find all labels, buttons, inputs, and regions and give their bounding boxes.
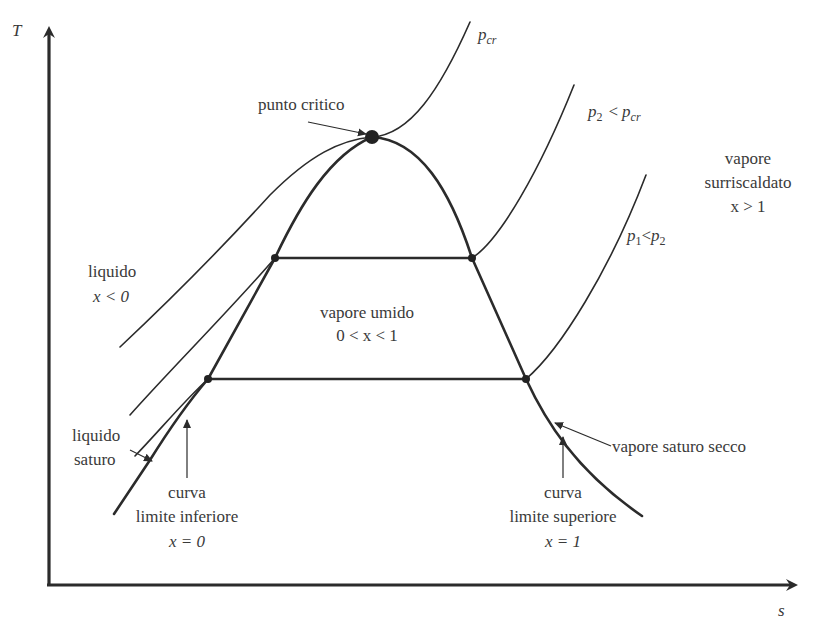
ts-diagram: T s pcr p2<pcr p1<p2 liquido x < 0 vapor… [0,0,813,633]
svg-text:vapore: vapore [725,149,771,168]
leader-arrows [130,122,611,478]
critical-point-dot [365,130,379,144]
svg-text:curva: curva [544,483,582,502]
svg-text:x = 0: x = 0 [168,532,206,551]
svg-text:liquido: liquido [88,262,136,281]
svg-text:x < 0: x < 0 [92,287,130,306]
axes [47,32,792,585]
s-axis-label: s [778,601,785,620]
lower-limit-curve-label: curva limite inferiore x = 0 [136,483,238,551]
liquid-region-label: liquido x < 0 [88,262,136,306]
isobar-p1-label: p1<p2 [626,226,666,248]
isobar-p2 [130,85,574,415]
svg-text:limite inferiore: limite inferiore [136,507,238,526]
saturated-liquid-arrow [130,450,152,461]
svg-text:surriscaldato: surriscaldato [705,173,792,192]
upper-limit-curve [372,137,642,516]
svg-text:p2<pcr: p2<pcr [587,102,641,124]
dry-saturated-vapor-label: vapore saturo secco [612,437,746,456]
point-p2-liquid [271,254,279,262]
svg-text:vapore umido: vapore umido [320,303,414,322]
upper-limit-curve-label: curva limite superiore x = 1 [509,483,616,551]
isobar-p2-label: p2<pcr [587,102,641,124]
isobar-pcr-label: pcr [477,25,497,47]
svg-text:curva: curva [168,483,206,502]
point-p1-liquid [204,375,212,383]
svg-text:x = 1: x = 1 [544,532,581,551]
wet-vapor-region-label: vapore umido 0 < x < 1 [320,303,414,345]
point-p1-vapor [522,375,530,383]
isobar-pcr [120,22,470,347]
svg-text:x > 1: x > 1 [730,197,765,216]
critical-point-label: punto critico [258,95,344,114]
t-axis-label: T [12,21,23,40]
svg-text:liquido: liquido [72,426,120,445]
svg-text:limite superiore: limite superiore [509,507,616,526]
svg-text:pcr: pcr [477,25,497,47]
state-points [204,130,530,383]
point-p2-vapor [468,254,476,262]
superheated-region-label: vapore surriscaldato x > 1 [705,149,792,216]
svg-text:p1<p2: p1<p2 [626,226,666,248]
svg-text:saturo: saturo [74,450,116,469]
svg-text:0 < x < 1: 0 < x < 1 [336,326,398,345]
saturated-liquid-label: liquido saturo [72,426,120,469]
lower-limit-curve [114,137,372,514]
critical-point-arrow [308,122,366,134]
